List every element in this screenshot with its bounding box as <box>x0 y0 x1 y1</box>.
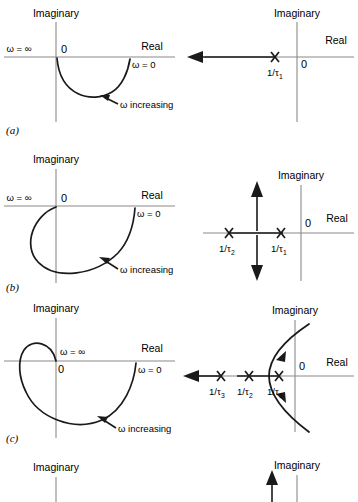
nyquist-plot-d: Imaginary <box>0 455 179 502</box>
omega-zero-label: ω = 0 <box>137 208 161 219</box>
imaginary-axis-label: Imaginary <box>33 302 80 314</box>
pole-label-tau1: 1/τ <box>267 386 279 397</box>
figure-row-b: Imaginary Real ω = ∞ 0 ω = 0 ω increasin… <box>0 145 358 290</box>
imaginary-axis-label: Imaginary <box>33 461 80 473</box>
figure-row-a: Imaginary Real ω = ∞ 0 ω = 0 ω increasin… <box>0 0 358 130</box>
omega-infinity-label: ω = ∞ <box>6 192 31 203</box>
imaginary-axis-label: Imaginary <box>274 7 321 19</box>
pole-label-tau2-subscript: 2 <box>231 249 235 256</box>
omega-infinity-label: ω = ∞ <box>60 346 85 357</box>
omega-infinity-label: ω = ∞ <box>6 43 31 54</box>
omega-zero-label: ω = 0 <box>132 59 156 70</box>
s-plane-plot-c: Imaginary Real 0 1/τ 3 <box>179 292 358 442</box>
pole-label-tau1-subscript: 1 <box>279 392 283 399</box>
origin-label: 0 <box>299 360 305 372</box>
real-axis-label: Real <box>326 212 348 224</box>
nyquist-root-locus-figure: Imaginary Real ω = ∞ 0 ω = 0 ω increasin… <box>0 0 358 502</box>
imaginary-axis-label: Imaginary <box>33 7 80 19</box>
root-locus-complex-branches <box>269 324 309 432</box>
omega-increasing-arrow <box>99 257 118 269</box>
nyquist-plot-a: Imaginary Real ω = ∞ 0 ω = 0 ω increasin… <box>0 0 179 130</box>
omega-increasing-label: ω increasing <box>120 99 173 110</box>
pole-label-tau3-subscript: 3 <box>221 392 225 399</box>
real-axis-label: Real <box>141 342 163 354</box>
real-axis-label: Real <box>141 189 163 201</box>
omega-increasing-label: ω increasing <box>120 264 173 275</box>
nyquist-plot-c: Imaginary Real ω = ∞ 0 ω = 0 ω increasin… <box>0 292 179 442</box>
imaginary-axis-label: Imaginary <box>278 169 325 181</box>
imaginary-axis-label: Imaginary <box>274 459 321 471</box>
pole-label-tau3: 1/τ <box>209 386 221 397</box>
real-axis-label: Real <box>326 356 348 368</box>
origin-label: 0 <box>58 363 64 375</box>
origin-label: 0 <box>301 58 307 70</box>
figure-row-d-clipped: Imaginary Imaginary <box>0 455 358 502</box>
origin-label: 0 <box>61 192 67 204</box>
pole-label-tau1: 1/τ <box>267 67 279 78</box>
omega-zero-label: ω = 0 <box>138 364 162 375</box>
nyquist-plot-b: Imaginary Real ω = ∞ 0 ω = 0 ω increasin… <box>0 145 179 290</box>
root-locus-branch-up <box>251 181 263 231</box>
root-locus-left-branch <box>183 370 221 382</box>
origin-label: 0 <box>305 217 311 229</box>
pole-label-tau1-subscript: 1 <box>283 249 287 256</box>
figure-row-c: Imaginary Real ω = ∞ 0 ω = 0 ω increasin… <box>0 292 358 442</box>
pole-label-tau2: 1/τ <box>219 243 231 254</box>
omega-increasing-arrow <box>97 416 116 428</box>
real-axis-label: Real <box>325 34 347 46</box>
nyquist-curve <box>57 58 130 97</box>
s-plane-plot-a: Imaginary Real 0 1/τ 1 <box>179 0 358 130</box>
omega-increasing-arrow <box>100 95 118 104</box>
real-axis-label: Real <box>141 40 163 52</box>
pole-label-tau2-subscript: 2 <box>249 392 253 399</box>
imaginary-axis-label: Imaginary <box>272 304 319 316</box>
imaginary-axis-label: Imaginary <box>33 153 80 165</box>
root-locus-branch <box>187 51 275 63</box>
pole-label-tau2: 1/τ <box>237 386 249 397</box>
s-plane-plot-b: Imaginary Real 0 1 <box>179 145 358 290</box>
pole-label-tau1: 1/τ <box>271 243 283 254</box>
pole-label-tau1-subscript: 1 <box>279 73 283 80</box>
subfigure-caption-c: (c) <box>6 432 18 444</box>
root-locus-branch-down <box>251 235 263 281</box>
s-plane-plot-d: Imaginary <box>179 455 358 502</box>
root-locus-branch-up <box>266 470 278 502</box>
omega-increasing-label: ω increasing <box>118 423 171 434</box>
subfigure-caption-a: (a) <box>6 124 19 136</box>
origin-label: 0 <box>61 43 67 55</box>
